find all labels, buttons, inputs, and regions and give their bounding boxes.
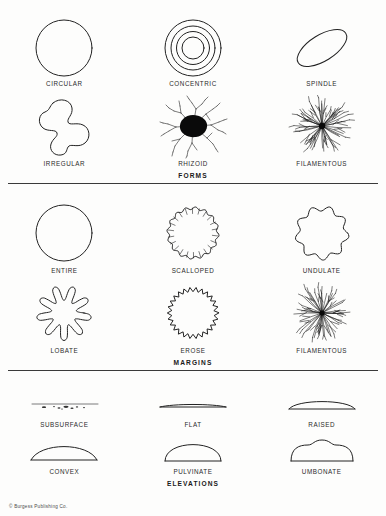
figure-erose: EROSE: [129, 274, 258, 354]
figure-caption: IRREGULAR: [43, 160, 85, 167]
figure-lobate: LOBATE: [0, 274, 129, 354]
figure-caption: FILAMENTOUS: [296, 347, 347, 354]
figure-caption: PULVINATE: [174, 468, 213, 475]
figure-caption: CONCENTRIC: [169, 80, 216, 87]
figure-caption: FILAMENTOUS: [296, 160, 347, 167]
figure-caption: LOBATE: [50, 347, 78, 354]
flat-elevation-icon: [143, 393, 243, 419]
figure-undulate: UNDULATE: [257, 194, 386, 274]
figure-caption: CONVEX: [49, 468, 79, 475]
rhizoid-colony-icon: [156, 95, 230, 159]
figure-irregular: IRREGULAR: [0, 87, 129, 167]
figure-convex: CONVEX: [0, 428, 129, 475]
figure-concentric: CONCENTRIC: [129, 9, 258, 87]
pulvinate-elevation-icon: [143, 436, 243, 466]
figure-caption: SPINDLE: [306, 80, 337, 87]
figure-caption: SUBSURFACE: [40, 421, 88, 428]
figure-filamentous-margin: FILAMENTOUS: [257, 274, 386, 354]
subsurface-elevation-icon: [14, 393, 114, 419]
figure-flat: FLAT: [129, 381, 258, 428]
figure-caption: UMBONATE: [302, 468, 342, 475]
figure-raised: RAISED: [257, 381, 386, 428]
forms-row-2: IRREGULAR: [0, 87, 386, 167]
figure-circular: CIRCULAR: [0, 9, 129, 87]
elevations-row-2: CONVEX PULVINATE UMBONATE: [0, 428, 386, 475]
figure-caption: SCALLOPED: [172, 267, 215, 274]
section-heading-forms: FORMS: [0, 172, 386, 179]
spindle-colony-icon: [285, 17, 359, 79]
figure-rhizoid: RHIZOID: [129, 87, 258, 167]
circular-colony-icon: [27, 17, 101, 79]
section-heading-elevations: ELEVATIONS: [0, 480, 386, 487]
elevations-row-1: SUBSURFACE FLAT RAISED: [0, 381, 386, 428]
figure-caption: FLAT: [184, 421, 201, 428]
figure-subsurface: SUBSURFACE: [0, 381, 129, 428]
figure-caption: CIRCULAR: [46, 80, 83, 87]
forms-section: CIRCULAR CONCENTRIC SPINDLE: [0, 0, 386, 184]
figure-spindle: SPINDLE: [257, 9, 386, 87]
undulate-margin-icon: [285, 202, 359, 266]
figure-caption: RAISED: [308, 421, 335, 428]
scalloped-margin-icon: [156, 202, 230, 266]
copyright-notice: © Burgess Publishing Co.: [9, 504, 67, 509]
colony-morphology-chart: CIRCULAR CONCENTRIC SPINDLE: [0, 0, 386, 516]
figure-caption: EROSE: [181, 347, 206, 354]
filamentous-margin-icon: [285, 282, 359, 346]
convex-elevation-icon: [14, 436, 114, 466]
figure-pulvinate: PULVINATE: [129, 428, 258, 475]
figure-caption: RHIZOID: [178, 160, 208, 167]
figure-caption: ENTIRE: [51, 267, 77, 274]
lobate-margin-icon: [27, 282, 101, 346]
figure-caption: UNDULATE: [303, 267, 341, 274]
erose-margin-icon: [156, 282, 230, 346]
filamentous-colony-icon: [285, 95, 359, 159]
entire-margin-icon: [27, 202, 101, 266]
figure-umbonate: UMBONATE: [257, 428, 386, 475]
concentric-colony-icon: [156, 17, 230, 79]
figure-filamentous-form: FILAMENTOUS: [257, 87, 386, 167]
irregular-colony-icon: [27, 95, 101, 159]
forms-row-1: CIRCULAR CONCENTRIC SPINDLE: [0, 9, 386, 87]
section-heading-margins: MARGINS: [0, 359, 386, 366]
raised-elevation-icon: [272, 393, 372, 419]
umbonate-elevation-icon: [272, 436, 372, 466]
figure-entire: ENTIRE: [0, 194, 129, 274]
elevations-section: SUBSURFACE FLAT RAISED CONVEX: [0, 371, 386, 487]
margins-section: ENTIRE SCALLOPED UNDULATE: [0, 184, 386, 371]
margins-row-2: LOBATE EROSE FILAMENTOUS: [0, 274, 386, 354]
figure-scalloped: SCALLOPED: [129, 194, 258, 274]
margins-row-1: ENTIRE SCALLOPED UNDULATE: [0, 194, 386, 274]
